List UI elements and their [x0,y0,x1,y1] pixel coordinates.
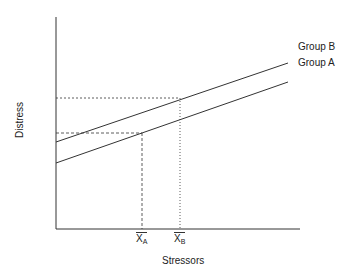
y-axis-label: Distress [14,102,25,138]
tick-xb: XB [174,232,185,247]
tick-xa: XA [136,232,147,247]
line-group-b [56,63,288,142]
line-group-a [56,82,288,163]
legend-group-b: Group B [298,41,335,52]
x-axis-label: Stressors [162,255,204,266]
legend-group-a: Group A [298,57,335,68]
